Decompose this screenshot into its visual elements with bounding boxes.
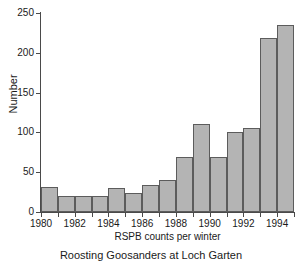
bar xyxy=(176,157,193,212)
y-axis-tick-label: 150 xyxy=(0,88,34,98)
bar xyxy=(193,124,210,212)
x-axis-label: RSPB counts per winter xyxy=(40,231,295,242)
x-axis-tick xyxy=(92,213,93,217)
bar xyxy=(75,196,92,212)
bar xyxy=(159,180,176,212)
y-axis-tick-label: 50 xyxy=(0,167,34,177)
x-axis-tick xyxy=(41,213,42,217)
bar xyxy=(277,25,294,212)
x-axis-tick xyxy=(176,213,177,217)
bar xyxy=(58,196,75,212)
bar xyxy=(243,128,260,212)
y-axis-tick-label: 100 xyxy=(0,127,34,137)
x-axis-tick xyxy=(159,213,160,217)
x-axis-tick xyxy=(294,213,295,217)
bar xyxy=(108,188,125,212)
y-axis-tick-label: 250 xyxy=(0,8,34,18)
x-axis-tick xyxy=(142,213,143,217)
bar xyxy=(227,132,244,212)
x-axis-tick xyxy=(58,213,59,217)
x-axis-tick xyxy=(260,213,261,217)
x-axis-tick xyxy=(243,213,244,217)
x-axis-tick-label: 1994 xyxy=(257,218,297,229)
x-axis-line xyxy=(40,212,295,213)
x-axis-tick xyxy=(75,213,76,217)
bar xyxy=(142,185,159,212)
chart-figure: Number 050100150200250 19801982198419861… xyxy=(0,0,302,268)
figure-caption: Roosting Goosanders at Loch Garten xyxy=(0,249,302,262)
y-axis-tick-label: 0 xyxy=(0,207,34,217)
plot-area xyxy=(41,13,294,212)
bar xyxy=(125,193,142,212)
x-axis-tick xyxy=(227,213,228,217)
bar xyxy=(260,38,277,212)
y-axis-tick-label: 200 xyxy=(0,48,34,58)
bar xyxy=(92,196,109,212)
x-axis-tick xyxy=(210,213,211,217)
x-axis-tick xyxy=(193,213,194,217)
x-axis-tick xyxy=(125,213,126,217)
bar xyxy=(210,157,227,212)
x-axis-tick xyxy=(108,213,109,217)
x-axis-tick xyxy=(277,213,278,217)
bar xyxy=(41,187,58,212)
